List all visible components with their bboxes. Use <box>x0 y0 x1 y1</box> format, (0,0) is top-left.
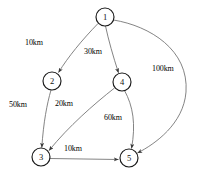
edge-label-1-2: 10km <box>25 38 43 47</box>
edge-1-to-4[interactable] <box>106 26 119 73</box>
edge-2-to-3[interactable] <box>42 90 51 148</box>
node-1-label: 1 <box>103 12 107 22</box>
graph-figure: 1 2 3 4 5 10km 30km 100km 50km 20km 60km <box>0 0 200 178</box>
edge-3-to-5[interactable] <box>50 159 119 160</box>
edge-label-4-3: 20km <box>55 99 73 108</box>
node-5-label: 5 <box>127 153 131 163</box>
edge-label-1-5: 100km <box>152 64 174 73</box>
edge-label-1-4: 30km <box>84 47 102 56</box>
edge-label-2-3: 50km <box>9 100 27 109</box>
node-5[interactable]: 5 <box>120 149 138 167</box>
node-2-label: 2 <box>50 76 54 86</box>
node-group: 1 2 3 4 5 <box>32 8 138 167</box>
node-1[interactable]: 1 <box>96 8 114 26</box>
node-3[interactable]: 3 <box>32 148 50 166</box>
edge-label-4-5: 60km <box>104 113 122 122</box>
node-2[interactable]: 2 <box>43 72 61 90</box>
edge-label-3-5: 10km <box>64 144 82 153</box>
edge-group <box>42 20 186 160</box>
node-3-label: 3 <box>39 152 43 162</box>
graph-canvas: 1 2 3 4 5 <box>0 0 200 178</box>
edge-4-to-5[interactable] <box>125 91 134 149</box>
node-4[interactable]: 4 <box>113 73 131 91</box>
